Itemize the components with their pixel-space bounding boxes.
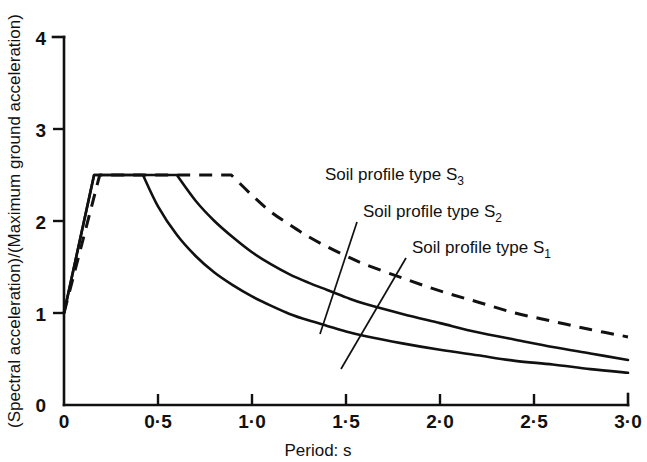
series-label-s3-subscript: 3 bbox=[457, 174, 464, 188]
chart-figure: 4 3 2 1 0 0 0·5 1·0 1·5 2·0 2·5 3·0 bbox=[0, 0, 647, 462]
series-label-s1-subscript: 1 bbox=[544, 247, 551, 261]
series-label-s1: Soil profile type S1 bbox=[412, 238, 551, 261]
series-label-s3-text: Soil profile type S bbox=[325, 165, 457, 184]
x-axis-title: Period: s bbox=[284, 441, 351, 460]
y-tick-labels-group: 4 3 2 1 0 bbox=[35, 28, 46, 416]
y-tick-label-0: 0 bbox=[35, 395, 46, 416]
series-curves-group bbox=[64, 175, 628, 373]
y-tick-label-3: 3 bbox=[35, 120, 46, 141]
x-tick-label-1p0: 1·0 bbox=[238, 411, 265, 432]
leader-lines-group bbox=[320, 222, 406, 369]
y-tick-label-2: 2 bbox=[35, 212, 46, 233]
x-tick-label-2p0: 2·0 bbox=[426, 411, 453, 432]
x-tick-label-1p5: 1·5 bbox=[332, 411, 360, 432]
axes-group bbox=[53, 37, 628, 405]
series-label-s1-text: Soil profile type S bbox=[412, 238, 544, 257]
x-tick-label-0p5: 0·5 bbox=[144, 411, 172, 432]
spectral-acceleration-chart: 4 3 2 1 0 0 0·5 1·0 1·5 2·0 2·5 3·0 bbox=[0, 0, 647, 462]
y-ticks-group bbox=[53, 129, 64, 313]
x-ticks-group bbox=[158, 394, 534, 405]
y-tick-label-1: 1 bbox=[35, 304, 46, 325]
leader-line-s2 bbox=[320, 222, 357, 334]
x-tick-labels-group: 0 0·5 1·0 1·5 2·0 2·5 3·0 bbox=[59, 411, 642, 432]
series-label-s3: Soil profile type S3 bbox=[325, 165, 464, 188]
series-label-s2: Soil profile type S2 bbox=[363, 202, 502, 225]
series-label-s2-text: Soil profile type S bbox=[363, 202, 495, 221]
y-axis-title: (Spectral acceleration)/(Maximum ground … bbox=[5, 14, 24, 428]
series-labels-group: Soil profile type S3 Soil profile type S… bbox=[325, 165, 551, 261]
x-tick-label-3p0: 3·0 bbox=[614, 411, 641, 432]
curve-soil-profile-s1 bbox=[64, 175, 628, 373]
x-tick-label-2p5: 2·5 bbox=[520, 411, 548, 432]
y-tick-label-4: 4 bbox=[35, 28, 46, 49]
series-label-s2-subscript: 2 bbox=[495, 211, 502, 225]
x-tick-label-0: 0 bbox=[59, 411, 70, 432]
